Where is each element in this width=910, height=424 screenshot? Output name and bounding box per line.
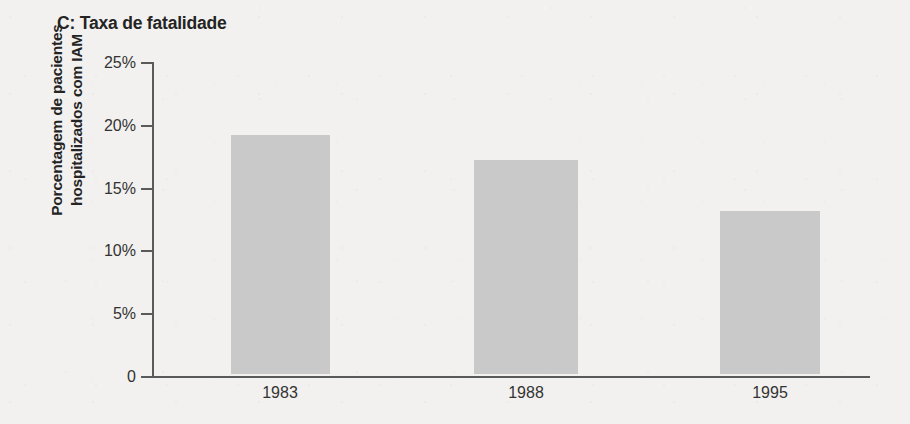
y-axis-tick-label-0: 0 <box>127 368 136 386</box>
fatality-rate-bar-chart: C: Taxa de fatalidade Porcentagem de pac… <box>0 0 910 424</box>
y-axis-tick-5: 5% <box>141 313 152 315</box>
bar-1995 <box>720 211 820 374</box>
y-axis-tick-label-10: 10% <box>104 242 136 260</box>
y-axis-tick-label-5: 5% <box>113 305 136 323</box>
y-axis-tick-0: 0 <box>141 376 152 378</box>
y-axis-tick-15: 15% <box>141 188 152 190</box>
x-axis-label-1983: 1983 <box>262 384 298 402</box>
y-axis-title-line-2: hospitalizados com IAM <box>67 34 87 206</box>
y-axis-tick-25: 25% <box>141 62 152 64</box>
y-axis-tick-label-15: 15% <box>104 180 136 198</box>
y-axis-tick-label-20: 20% <box>104 117 136 135</box>
bar-1988 <box>474 160 578 374</box>
y-axis-tick-20: 20% <box>141 125 152 127</box>
x-axis-line <box>152 376 870 378</box>
y-axis-line <box>152 62 154 377</box>
plot-area: 25% 20% 15% 10% 5% 0 1983 1988 1995 <box>152 62 870 376</box>
y-axis-title-line-1: Porcentagem de pacientes <box>47 24 67 216</box>
bar-1983 <box>231 135 330 374</box>
y-axis-title: Porcentagem de pacientes hospitalizados … <box>44 0 90 265</box>
y-axis-tick-10: 10% <box>141 250 152 252</box>
x-axis-label-1995: 1995 <box>752 384 788 402</box>
x-axis-label-1988: 1988 <box>508 384 544 402</box>
y-axis-tick-label-25: 25% <box>104 54 136 72</box>
